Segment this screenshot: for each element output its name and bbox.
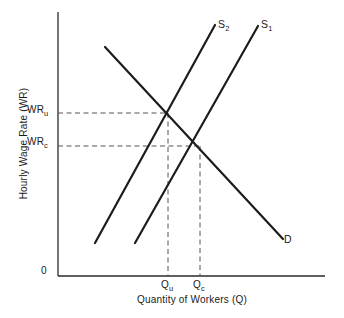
x-tick-sub-q-u: u	[169, 284, 173, 293]
y-tick-sub-wr-c: c	[44, 141, 48, 150]
chart-canvas	[0, 0, 344, 318]
x-tick-base-q-u: Q	[161, 279, 169, 290]
x-tick-sub-q-c: c	[201, 284, 205, 293]
curve-label-d: D	[284, 233, 292, 245]
x-axis-title: Quantity of Workers (Q)	[58, 294, 326, 305]
y-tick-sub-wr-u: u	[44, 109, 48, 118]
y-tick-base-wr-u: WR	[27, 104, 44, 115]
y-tick-label-wr-u: WRu	[27, 104, 48, 118]
origin-label: 0	[41, 265, 47, 276]
x-tick-label-q-u: Qu	[161, 279, 173, 293]
curve-label-s2-sub: 2	[225, 24, 229, 33]
supply-demand-chart: Hourly Wage Rate (WR) Quantity of Worker…	[0, 0, 344, 318]
curve-label-s1-sub: 1	[268, 24, 272, 33]
y-tick-base-wr-c: WR	[27, 136, 44, 147]
y-tick-label-wr-c: WRc	[27, 136, 48, 150]
x-tick-base-q-c: Q	[193, 279, 201, 290]
curve-label-s2: S2	[218, 18, 230, 33]
x-tick-label-q-c: Qc	[193, 279, 205, 293]
curve-label-s1: S1	[261, 18, 273, 33]
demand-curve	[105, 47, 283, 239]
